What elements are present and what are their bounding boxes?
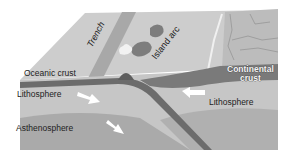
label-oceanic-crust: Oceanic crust — [24, 68, 77, 78]
label-asthenosphere: Asthenosphere — [16, 123, 73, 133]
label-continental-crust-2: crust — [240, 73, 261, 83]
label-lithosphere-right: Lithosphere — [209, 97, 254, 107]
subduction-diagram: Trench Island arc Oceanic crust Continen… — [0, 0, 282, 158]
label-lithosphere-left: Lithosphere — [17, 89, 62, 99]
